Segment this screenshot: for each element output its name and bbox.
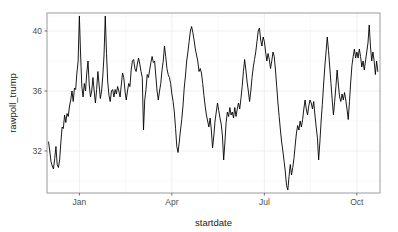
plot-panel-background [47, 13, 380, 193]
y-axis: 323640 [33, 26, 47, 156]
x-tick-label: Apr [165, 197, 178, 207]
y-axis-title: rawpoll_trump [7, 73, 18, 133]
x-tick-label: Jul [259, 197, 270, 207]
y-tick-label: 32 [33, 146, 43, 156]
line-chart-plot: 323640 JanAprJulOct startdate rawpoll_tr… [0, 0, 398, 232]
y-tick-label: 40 [33, 26, 43, 36]
x-tick-label: Jan [73, 197, 87, 207]
chart-container: 323640 JanAprJulOct startdate rawpoll_tr… [0, 0, 398, 232]
y-tick-label: 36 [33, 86, 43, 96]
x-tick-label: Oct [350, 197, 364, 207]
x-axis: JanAprJulOct [73, 193, 365, 207]
x-axis-title: startdate [195, 217, 232, 228]
